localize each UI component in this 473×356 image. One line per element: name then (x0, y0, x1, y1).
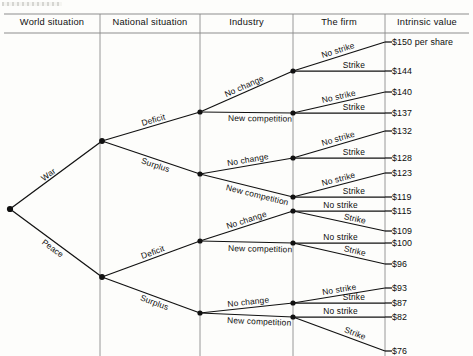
edge-firm-strike (293, 211, 385, 231)
branch-label-strike: Strike (343, 186, 365, 196)
edge-firm-strike (293, 317, 385, 351)
intrinsic-value-6: $128 (392, 153, 412, 163)
branch-label-no-strike: No strike (323, 200, 357, 210)
intrinsic-value-9: $115 (392, 206, 411, 216)
intrinsic-value-1: $150 per share (392, 37, 453, 47)
column-header-national-situation: National situation (100, 17, 200, 27)
intrinsic-value-4: $137 (392, 108, 412, 118)
column-header-intrinsic-value: Intrinsic value (385, 17, 469, 27)
column-header-the-firm: The firm (293, 17, 385, 27)
node-industry (290, 300, 295, 305)
intrinsic-value-14: $87 (392, 298, 407, 308)
node-industry (290, 208, 295, 213)
edge-firm-strike (293, 243, 385, 264)
branch-label-strike: Strike (343, 102, 365, 112)
node-world (99, 138, 105, 144)
column-header-world-situation: World situation (4, 17, 100, 27)
node-world (99, 274, 105, 280)
intrinsic-value-12: $96 (392, 259, 407, 269)
edge-industry (200, 71, 293, 112)
branch-label-strike: Strike (343, 147, 365, 157)
tree-edges (10, 42, 392, 351)
node-root (7, 206, 13, 212)
edge-world (10, 209, 102, 277)
branch-label-no-strike: No strike (323, 306, 357, 316)
intrinsic-value-11: $100 (392, 238, 412, 248)
column-header-industry: Industry (200, 17, 293, 27)
edge-world (10, 141, 102, 209)
node-industry (290, 194, 295, 199)
node-industry (290, 155, 295, 160)
node-national (197, 238, 202, 243)
node-industry (290, 68, 295, 73)
branch-label-strike: Strike (343, 292, 365, 302)
node-national (197, 109, 202, 114)
intrinsic-value-10: $109 (392, 226, 412, 236)
decision-tree-figure: World situationNational situationIndustr… (0, 0, 473, 356)
intrinsic-value-7: $123 (392, 168, 412, 178)
branch-label-new-competition: New competition (228, 243, 292, 254)
branch-label-new-competition: New competition (228, 113, 292, 124)
node-national (197, 310, 202, 315)
intrinsic-value-13: $93 (392, 283, 407, 293)
intrinsic-value-5: $132 (392, 126, 412, 136)
node-national (197, 171, 202, 176)
intrinsic-value-16: $76 (392, 346, 407, 356)
intrinsic-value-8: $119 (392, 192, 411, 202)
intrinsic-value-3: $140 (392, 87, 412, 97)
branch-label-strike: Strike (343, 60, 365, 70)
intrinsic-value-15: $82 (392, 312, 407, 322)
intrinsic-value-2: $144 (392, 66, 412, 76)
branch-label-no-strike: No strike (323, 232, 357, 242)
